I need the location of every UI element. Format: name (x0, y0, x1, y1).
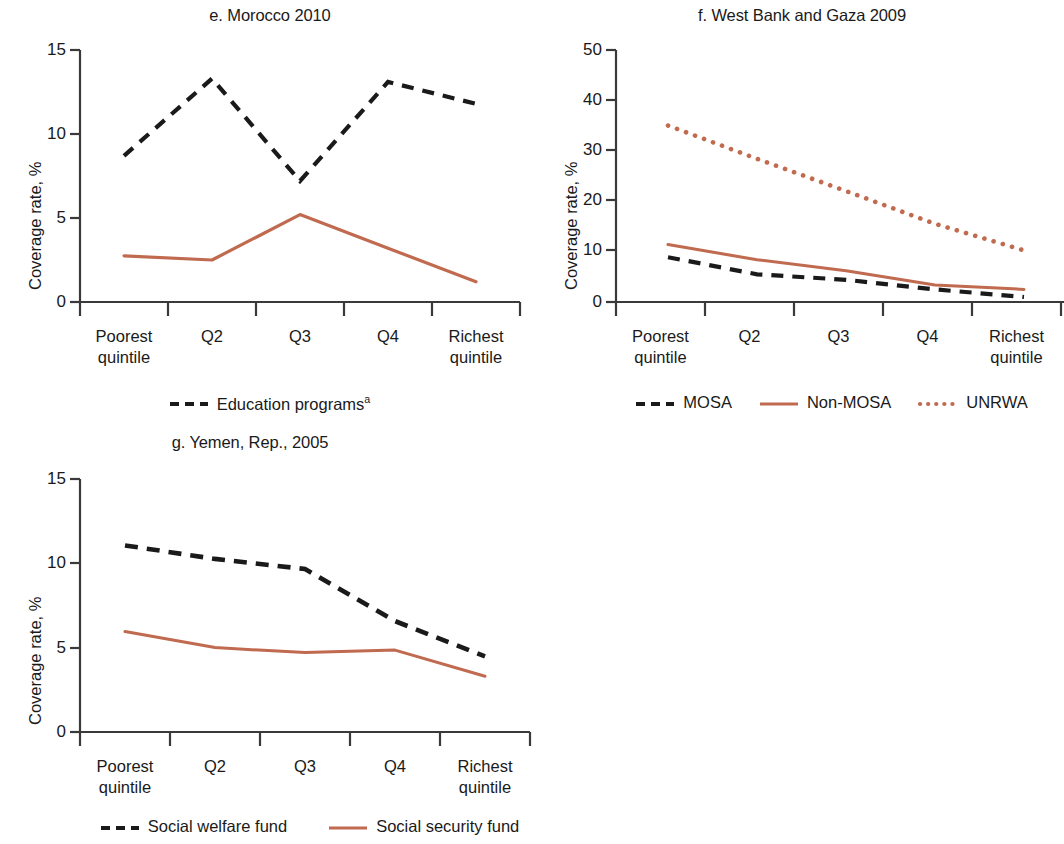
legend-label-mosa: MOSA (683, 393, 732, 412)
x-tick-label-richest: Richestquintile (432, 326, 520, 367)
panel-yemen: g. Yemen, Rep., 2005 Coverage rate, % 15… (0, 425, 560, 844)
legend-swatch-dashed-icon (636, 401, 674, 405)
x-tick-label-text: Richestquintile (989, 327, 1044, 366)
x-tick-label-q2: Q2 (168, 326, 256, 347)
x-tick-label-q4: Q4 (883, 326, 972, 347)
x-tick-label-richest: Richestquintile (440, 756, 530, 797)
x-tick-label-q4: Q4 (350, 756, 440, 777)
legend-label-education-programs: Education programsa (217, 393, 371, 414)
legend-label-social-welfare-fund: Social welfare fund (148, 817, 287, 836)
legend-swatch-solid-icon (329, 825, 367, 829)
x-tick-label-q2: Q2 (170, 756, 260, 777)
legend-label-unrwa: UNRWA (966, 393, 1027, 412)
legend-item-non-mosa: Non-MOSA (760, 393, 891, 412)
x-tick-label-text: Richestquintile (448, 327, 503, 366)
x-tick-label-richest: Richestquintile (972, 326, 1061, 367)
multi-panel-line-chart-figure: e. Morocco 2010 Coverage rate, % 15 10 5… (0, 0, 1064, 844)
series-line-education-programs (124, 79, 476, 181)
x-tick-label-q3: Q3 (256, 326, 344, 347)
legend-item-education-programs: Education programsa (170, 393, 371, 414)
x-tick-label-q3: Q3 (260, 756, 350, 777)
legend-swatch-dashed-icon (101, 825, 139, 829)
x-tick-label-text: Poorestquintile (632, 327, 689, 366)
series-line-non-mosa (668, 245, 1024, 290)
legend-label-social-security-fund: Social security fund (376, 817, 519, 836)
legend-swatch-dotted-icon (919, 401, 957, 405)
legend-item-social-welfare-fund: Social welfare fund (101, 817, 287, 836)
series-line-red (124, 215, 476, 282)
legend-footnote-marker: a (364, 393, 370, 405)
panel-morocco: e. Morocco 2010 Coverage rate, % 15 10 5… (0, 0, 540, 420)
legend-morocco: Education programsa (0, 393, 540, 414)
series-line-unrwa (668, 126, 1024, 251)
legend-swatch-solid-icon (760, 401, 798, 405)
legend-label-non-mosa: Non-MOSA (807, 393, 891, 412)
x-tick-label-text: Richestquintile (457, 757, 512, 796)
series-line-mosa (668, 257, 1024, 297)
x-tick-label-q2: Q2 (705, 326, 794, 347)
x-tick-label-text: Poorestquintile (96, 327, 153, 366)
legend-yemen: Social welfare fund Social security fund (60, 817, 560, 836)
legend-label-text: Education programs (217, 395, 365, 413)
legend-swatch-dashed-icon (170, 401, 208, 405)
legend-west-bank-and-gaza: MOSA Non-MOSA UNRWA (600, 393, 1064, 412)
x-tick-label-q3: Q3 (794, 326, 883, 347)
legend-item-mosa: MOSA (636, 393, 732, 412)
x-tick-label-text: Poorestquintile (97, 757, 154, 796)
x-tick-label-q4: Q4 (344, 326, 432, 347)
x-tick-label-poorest: Poorestquintile (616, 326, 705, 367)
legend-item-unrwa: UNRWA (919, 393, 1027, 412)
panel-west-bank-and-gaza: f. West Bank and Gaza 2009 Coverage rate… (540, 0, 1064, 420)
legend-item-social-security-fund: Social security fund (329, 817, 519, 836)
x-tick-label-poorest: Poorestquintile (80, 326, 168, 367)
x-tick-label-poorest: Poorestquintile (80, 756, 170, 797)
series-line-social-security-fund (125, 632, 485, 677)
